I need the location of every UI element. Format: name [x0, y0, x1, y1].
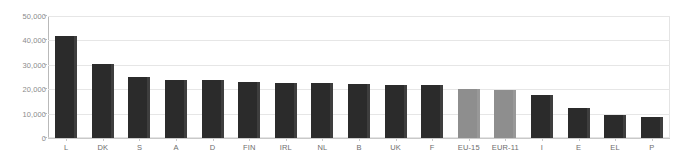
- bar-highlight: [404, 85, 407, 138]
- bar-highlight: [330, 83, 333, 138]
- bar[interactable]: [55, 36, 77, 138]
- y-axis-tick-label: 30,000: [2, 60, 46, 69]
- bar[interactable]: [458, 89, 480, 138]
- bar[interactable]: [494, 90, 516, 138]
- bar-highlight: [550, 95, 553, 138]
- bar[interactable]: [202, 80, 224, 138]
- x-axis-tick-label: S: [137, 143, 142, 152]
- bar-highlight: [660, 117, 663, 138]
- bar-slot: [597, 16, 634, 138]
- bar[interactable]: [604, 115, 626, 138]
- x-axis-tick-mark: [249, 138, 250, 141]
- x-axis-tick-mark: [213, 138, 214, 141]
- x-axis-tick-mark: [139, 138, 140, 141]
- bar-slot: [560, 16, 597, 138]
- y-axis-tick-label: 20,000: [2, 85, 46, 94]
- x-axis-tick-label: DK: [98, 143, 109, 152]
- bar[interactable]: [275, 83, 297, 138]
- x-axis-tick-mark: [432, 138, 433, 141]
- x-axis-tick-label: L: [64, 143, 68, 152]
- y-axis-tick-label: 40,000: [2, 36, 46, 45]
- bars-layer: [48, 16, 670, 138]
- x-axis-tick-label: NL: [317, 143, 327, 152]
- x-axis-tick-label: FIN: [243, 143, 256, 152]
- bar-highlight: [623, 115, 626, 138]
- bar-highlight: [440, 85, 443, 138]
- bar-slot: [231, 16, 268, 138]
- bar[interactable]: [238, 82, 260, 138]
- bar[interactable]: [641, 117, 663, 138]
- y-axis-tick-mark: [44, 15, 47, 16]
- bar-slot: [158, 16, 195, 138]
- bar[interactable]: [165, 80, 187, 138]
- bar[interactable]: [92, 64, 114, 138]
- x-axis-tick-mark: [579, 138, 580, 141]
- bar-highlight: [147, 77, 150, 138]
- bar-slot: [341, 16, 378, 138]
- bar-slot: [414, 16, 451, 138]
- y-axis-tick-label: 50,000: [2, 12, 46, 21]
- x-axis-tick-mark: [66, 138, 67, 141]
- bar-highlight: [74, 36, 77, 138]
- bar-slot: [194, 16, 231, 138]
- bar-slot: [304, 16, 341, 138]
- y-axis-tick-mark: [44, 64, 47, 65]
- bar[interactable]: [568, 108, 590, 138]
- bar[interactable]: [421, 85, 443, 138]
- bar-slot: [524, 16, 561, 138]
- y-axis-tick-mark: [44, 39, 47, 40]
- x-axis-tick-label: E: [576, 143, 581, 152]
- bar-highlight: [513, 90, 516, 138]
- bar-highlight: [367, 84, 370, 138]
- y-axis-tick-mark: [44, 88, 47, 89]
- bar-slot: [377, 16, 414, 138]
- x-axis-tick-label: A: [173, 143, 178, 152]
- x-axis-tick-mark: [103, 138, 104, 141]
- bar[interactable]: [128, 77, 150, 138]
- bar-slot: [633, 16, 670, 138]
- x-axis-tick-label: EUR-11: [492, 143, 519, 152]
- y-axis-tick-label: 10,000: [2, 109, 46, 118]
- bar-slot: [85, 16, 122, 138]
- x-axis-tick-label: D: [210, 143, 216, 152]
- bar-slot: [121, 16, 158, 138]
- bar[interactable]: [385, 85, 407, 138]
- bar-highlight: [587, 108, 590, 138]
- x-axis-tick-label: B: [356, 143, 361, 152]
- bar-highlight: [184, 80, 187, 138]
- bar[interactable]: [311, 83, 333, 138]
- x-axis-tick-label: UK: [390, 143, 401, 152]
- y-axis-tick-mark: [44, 113, 47, 114]
- x-axis-tick-mark: [359, 138, 360, 141]
- x-axis-tick-label: IRL: [280, 143, 292, 152]
- x-axis-tick-mark: [615, 138, 616, 141]
- x-axis-tick-mark: [542, 138, 543, 141]
- x-axis-tick-mark: [505, 138, 506, 141]
- bar-slot: [487, 16, 524, 138]
- y-axis-tick-label: 0: [2, 134, 46, 143]
- bar[interactable]: [531, 95, 553, 138]
- x-axis-tick-mark: [322, 138, 323, 141]
- x-axis-tick-mark: [652, 138, 653, 141]
- bar-chart: 50,00040,00030,00020,00010,0000 LDKSADFI…: [0, 0, 688, 168]
- bar-slot: [48, 16, 85, 138]
- x-axis-tick-label: P: [649, 143, 654, 152]
- x-axis-tick-label: EL: [610, 143, 619, 152]
- bar-highlight: [221, 80, 224, 138]
- y-axis-tick-mark: [44, 137, 47, 138]
- bar-highlight: [477, 89, 480, 138]
- bar-slot: [450, 16, 487, 138]
- x-axis-tick-mark: [469, 138, 470, 141]
- bar-slot: [268, 16, 305, 138]
- x-axis-tick-label: EU-15: [458, 143, 480, 152]
- x-axis-tick-mark: [396, 138, 397, 141]
- bar-highlight: [257, 82, 260, 138]
- x-axis-tick-mark: [286, 138, 287, 141]
- x-axis-tick-label: F: [430, 143, 435, 152]
- bar-highlight: [294, 83, 297, 138]
- bar[interactable]: [348, 84, 370, 138]
- bar-highlight: [111, 64, 114, 138]
- x-axis-tick-mark: [176, 138, 177, 141]
- x-axis-tick-label: I: [541, 143, 543, 152]
